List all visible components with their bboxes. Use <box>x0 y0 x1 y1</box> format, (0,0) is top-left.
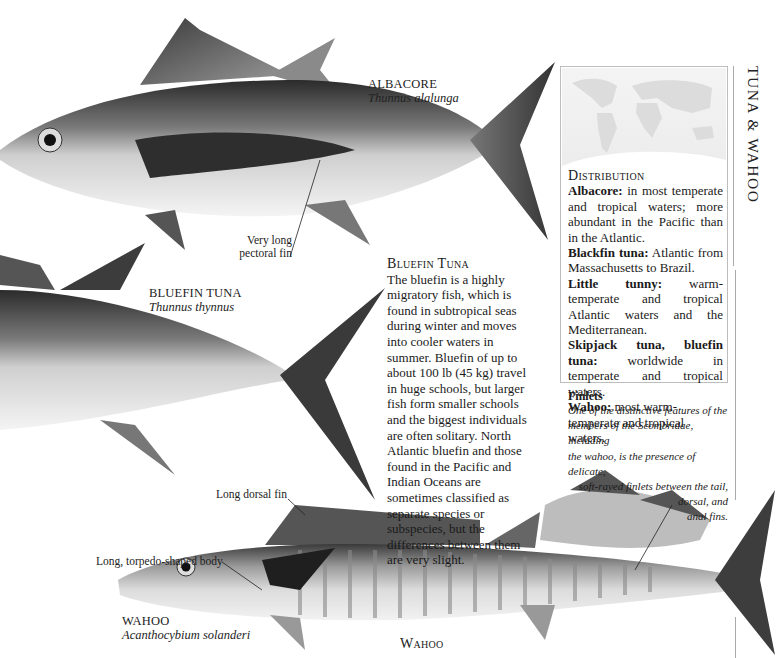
distribution-heading: Distribution <box>568 168 723 183</box>
wahoo-caption: WAHOO Acanthocybium solanderi <box>122 614 250 642</box>
wahoo-common-name: WAHOO <box>122 614 250 628</box>
bluefin-article-heading: Bluefin Tuna <box>387 256 537 272</box>
finlets-note: Finlets One of the distinctive features … <box>568 389 728 525</box>
finlets-line: dorsal, and <box>568 494 728 509</box>
body-shape-callout: Long, torpedo-shaped body <box>96 555 223 568</box>
finlets-heading: Finlets <box>568 389 728 403</box>
species-name: Blackfin tuna: <box>568 245 649 260</box>
finlets-line: members of the Scombridae, including <box>568 418 728 448</box>
distribution-panel: Distribution Albacore: in most temperate… <box>560 66 728 383</box>
bluefin-article: Bluefin Tuna The bluefin is a highly mig… <box>387 256 537 568</box>
albacore-fish <box>0 18 555 257</box>
bluefin-common-name: BLUEFIN TUNA <box>149 286 242 300</box>
distribution-entry-blackfin: Blackfin tuna: Atlantic from Massachuset… <box>568 245 723 276</box>
side-rule <box>735 617 736 658</box>
dorsal-fin-callout: Long dorsal fin <box>216 488 287 501</box>
albacore-scientific-name: Thunnus alalunga <box>368 91 459 105</box>
wahoo-scientific-name: Acanthocybium solanderi <box>122 628 250 642</box>
pectoral-fin-callout: Very long pectoral fin <box>226 234 292 260</box>
side-rule <box>735 270 736 500</box>
bluefin-fish <box>0 243 385 500</box>
finlets-line: soft-rayed finlets between the tail, <box>568 479 728 494</box>
bluefin-scientific-name: Thunnus thynnus <box>149 300 242 314</box>
distribution-entry-albacore: Albacore: in most temperate and tropical… <box>568 183 723 245</box>
finlets-line: anal fins. <box>568 509 728 524</box>
wahoo-heading: Wahoo <box>400 636 444 652</box>
finlets-line: One of the distinctive features of the <box>568 403 728 418</box>
bluefin-caption: BLUEFIN TUNA Thunnus thynnus <box>149 286 242 314</box>
world-map <box>562 68 726 166</box>
side-rule <box>733 66 734 266</box>
species-name: Little tunny: <box>568 276 662 291</box>
section-title: TUNA & WAHOO <box>744 66 762 203</box>
bluefin-article-body: The bluefin is a highly migratory fish, … <box>387 272 537 568</box>
finlets-line: the wahoo, is the presence of delicate, <box>568 449 728 479</box>
species-name: Albacore: <box>568 183 623 198</box>
albacore-caption: ALBACORE Thunnus alalunga <box>368 77 459 105</box>
distribution-entry-little-tunny: Little tunny: warm-temperate and tropica… <box>568 276 723 338</box>
albacore-common-name: ALBACORE <box>368 77 459 91</box>
